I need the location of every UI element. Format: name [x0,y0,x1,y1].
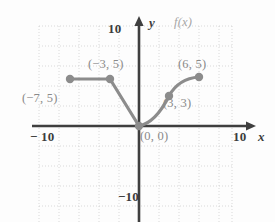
point-label-neg7-5: (−7, 5) [22,92,58,105]
point-label-6-5: (6, 5) [178,58,206,71]
segment-linear [110,79,139,126]
point-label-0-0: (0, 0) [140,130,168,143]
point-label-neg3-5: (−3, 5) [88,58,124,71]
x-axis-name-label: x [258,130,265,143]
point-neg7-5 [66,75,74,83]
point-neg3-5 [106,75,114,83]
point-label-3-3: (3, 3) [163,97,191,110]
graph-figure: 10 − 10 10 −10 y x f(x) (−7, 5) (−3, 5) … [0,0,275,222]
function-name-label: f(x) [174,16,192,29]
x-axis-min-tick-label: − 10 [30,130,54,143]
y-axis-min-tick-label: −10 [118,190,139,203]
y-axis-name-label: y [149,16,155,29]
y-axis-max-tick-label: 10 [108,22,121,35]
point-6-5 [195,73,203,81]
x-axis-max-tick-label: 10 [233,130,246,143]
